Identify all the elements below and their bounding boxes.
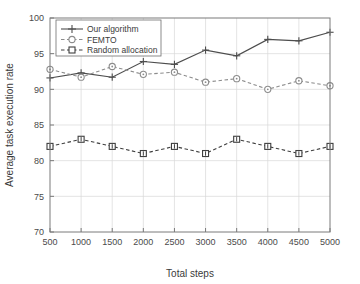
marker-circle-center (80, 76, 82, 78)
chart-figure: 707580859095100 500100015002000250030003… (0, 0, 360, 284)
x-tick-label: 2500 (164, 237, 184, 247)
legend-label-femto: FEMTO (87, 35, 117, 45)
chart-legend: Our algorithm FEMTO Random allocation (56, 20, 161, 56)
square-icon (69, 47, 75, 53)
circle-icon (69, 36, 75, 42)
y-tick-label: 90 (34, 85, 44, 95)
marker-circle-center (205, 81, 207, 83)
legend-label-random-allocation: Random allocation (87, 45, 158, 55)
x-tick-label: 5000 (320, 237, 340, 247)
marker-circle-center (111, 66, 113, 68)
marker-circle-center (174, 71, 176, 73)
y-tick-label: 75 (34, 192, 44, 202)
legend-label-our-algorithm: Our algorithm (87, 24, 139, 34)
x-axis-title: Total steps (166, 268, 214, 279)
y-tick-label: 100 (29, 13, 44, 23)
x-tick-label: 500 (42, 237, 57, 247)
marker-circle-center (142, 73, 144, 75)
marker-circle-center (267, 88, 269, 90)
y-tick-label: 70 (34, 227, 44, 237)
x-tick-label: 1500 (102, 237, 122, 247)
x-tick-label: 3500 (227, 237, 247, 247)
x-tick-label: 4500 (289, 237, 309, 247)
legend-entry-random-allocation: Random allocation (61, 45, 158, 55)
x-tick-label: 3000 (196, 237, 216, 247)
y-tick-label: 85 (34, 120, 44, 130)
marker-circle-center (236, 78, 238, 80)
x-tick-label: 2000 (133, 237, 153, 247)
x-tick-label: 4000 (258, 237, 278, 247)
y-tick-label: 95 (34, 49, 44, 59)
y-tick-label: 80 (34, 156, 44, 166)
y-axis-title: Average task execution rate (4, 63, 15, 187)
x-tick-label: 1000 (71, 237, 91, 247)
marker-circle-center (298, 80, 300, 82)
